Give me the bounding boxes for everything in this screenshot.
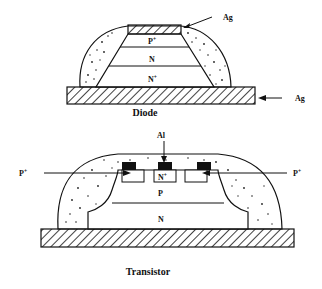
transistor-diagram: N+ P N Al P+ P+ Transistor bbox=[19, 131, 301, 277]
device-diagrams: P+ N N+ Ag Ag Diode bbox=[0, 0, 322, 289]
diode-bottom-plate bbox=[67, 87, 255, 104]
diode-top-arrowhead-icon bbox=[183, 23, 190, 28]
transistor-caption: Transistor bbox=[126, 266, 171, 277]
transistor-region-label-n: N bbox=[158, 215, 164, 224]
transistor-base-plate bbox=[41, 229, 294, 247]
diode-caption: Diode bbox=[133, 107, 159, 118]
transistor-center-contact bbox=[158, 162, 172, 170]
transistor-left-p-plus-label: P+ bbox=[19, 168, 27, 178]
diode-bottom-arrowhead-icon bbox=[258, 95, 266, 101]
transistor-left-contact bbox=[122, 162, 136, 170]
diode-top-contact-label: Ag bbox=[223, 13, 233, 22]
diode-bottom-contact-label: Ag bbox=[295, 94, 305, 103]
diode-diagram: P+ N N+ Ag Ag Diode bbox=[67, 13, 305, 118]
transistor-region-label-p: P bbox=[158, 189, 163, 198]
diode-top-contact bbox=[128, 25, 181, 34]
transistor-right-contact bbox=[197, 162, 211, 170]
transistor-right-p-plus-label: P+ bbox=[293, 168, 301, 178]
diode-layer-label-n: N bbox=[149, 55, 155, 64]
transistor-al-label: Al bbox=[157, 131, 166, 140]
diode-top-arrow-icon bbox=[186, 17, 212, 27]
transistor-right-p-plus-region bbox=[185, 170, 207, 182]
